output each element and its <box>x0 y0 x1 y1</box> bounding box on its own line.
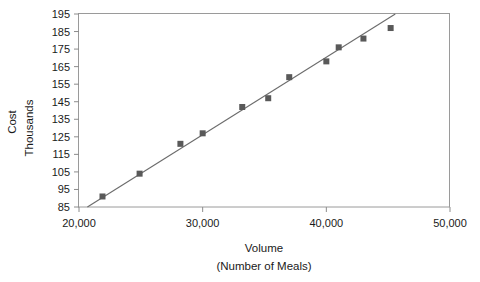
y-tick-label: 95 <box>58 183 70 195</box>
data-point-marker <box>177 141 183 147</box>
y-axis-title: Cost Thousands <box>6 99 35 156</box>
y-tick-label: 155 <box>52 78 70 90</box>
x-tick-label: 30,000 <box>186 217 220 229</box>
regression-line-group <box>87 14 395 207</box>
data-point-marker <box>336 44 342 50</box>
y-axis-title-line1: Cost <box>6 109 18 133</box>
x-tick-label: 50,000 <box>433 217 467 229</box>
y-axis-tick-group: 8595105115125135145155165175185195 <box>52 8 79 213</box>
data-point-marker <box>388 25 394 31</box>
x-axis-title-line1: Volume <box>245 242 283 254</box>
data-point-marker <box>137 171 143 177</box>
x-tick-label: 20,000 <box>62 217 96 229</box>
data-point-marker <box>286 74 292 80</box>
y-tick-label: 125 <box>52 131 70 143</box>
y-tick-label: 165 <box>52 61 70 73</box>
x-axis-title-line2: (Number of Meals) <box>216 260 311 272</box>
y-tick-label: 195 <box>52 8 70 20</box>
data-point-group <box>99 25 393 199</box>
data-point-marker <box>323 58 329 64</box>
y-tick-label: 135 <box>52 113 70 125</box>
y-tick-label: 105 <box>52 166 70 178</box>
y-tick-label: 145 <box>52 96 70 108</box>
chart-canvas: 8595105115125135145155165175185195 20,00… <box>0 0 480 282</box>
cost-volume-scatter-chart: 8595105115125135145155165175185195 20,00… <box>0 0 480 282</box>
data-point-marker <box>239 104 245 110</box>
regression-line <box>87 14 395 207</box>
data-point-marker <box>200 130 206 136</box>
x-axis-title: Volume (Number of Meals) <box>216 242 311 272</box>
y-tick-label: 175 <box>52 43 70 55</box>
y-tick-label: 85 <box>58 201 70 213</box>
data-point-marker <box>265 95 271 101</box>
y-tick-label: 115 <box>52 148 70 160</box>
y-tick-label: 185 <box>52 26 70 38</box>
x-axis-tick-group: 20,00030,00040,00050,000 <box>62 207 467 229</box>
x-tick-label: 40,000 <box>310 217 344 229</box>
data-point-marker <box>99 193 105 199</box>
data-point-marker <box>360 36 366 42</box>
y-axis-title-line2: Thousands <box>23 99 35 156</box>
